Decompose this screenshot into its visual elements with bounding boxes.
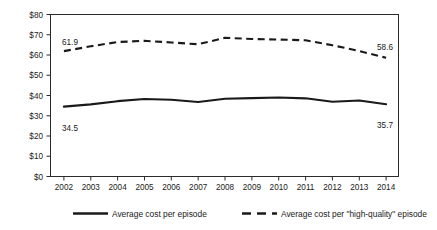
- data-labels: 61.9 58.6 34.5 35.7: [62, 38, 393, 133]
- data-label-solid-start: 34.5: [62, 124, 78, 133]
- y-tick-label-60: $60: [29, 51, 43, 60]
- data-label-solid-end: 35.7: [377, 121, 393, 130]
- series-line-average: [64, 98, 386, 107]
- x-tick-label-2005: 2005: [135, 183, 154, 192]
- x-tick-label-2011: 2011: [297, 183, 315, 192]
- y-tick-label-80: $80: [29, 11, 43, 20]
- y-axis-ticks: [47, 15, 51, 177]
- legend-label-average-cost-per-high-quality-episode: Average cost per "high-quality" episode: [281, 209, 427, 219]
- x-tick-label-2002: 2002: [55, 183, 74, 192]
- x-axis-ticks: [64, 177, 386, 181]
- y-axis-labels: $80 $70 $60 $50 $40 $30 $20 $10 $0: [29, 11, 43, 182]
- y-tick-label-70: $70: [29, 31, 43, 40]
- series-line-high-quality: [64, 38, 386, 58]
- series-group: [64, 38, 386, 107]
- x-tick-label-2006: 2006: [162, 183, 181, 192]
- y-tick-label-40: $40: [29, 92, 43, 101]
- x-tick-label-2003: 2003: [82, 183, 101, 192]
- y-tick-label-30: $30: [29, 112, 43, 121]
- x-axis-labels: 2002 2003 2004 2005 2006 2007 2008 2009 …: [55, 183, 396, 192]
- x-tick-label-2013: 2013: [350, 183, 369, 192]
- x-tick-label-2007: 2007: [189, 183, 208, 192]
- data-label-dashed-end: 58.6: [377, 43, 393, 52]
- x-tick-label-2004: 2004: [108, 183, 127, 192]
- legend-label-average-cost-per-episode: Average cost per episode: [112, 209, 207, 219]
- x-tick-label-2014: 2014: [377, 183, 396, 192]
- x-tick-label-2009: 2009: [243, 183, 262, 192]
- y-tick-label-20: $20: [29, 132, 43, 141]
- line-chart: $80 $70 $60 $50 $40 $30 $20 $10 $0: [0, 0, 437, 230]
- x-tick-label-2010: 2010: [270, 183, 289, 192]
- data-label-dashed-start: 61.9: [62, 38, 78, 47]
- y-tick-label-0: $0: [34, 173, 44, 182]
- x-tick-label-2012: 2012: [323, 183, 342, 192]
- legend: Average cost per episode Average cost pe…: [73, 209, 427, 219]
- y-tick-label-50: $50: [29, 71, 43, 80]
- y-tick-label-10: $10: [29, 152, 43, 161]
- chart-canvas: $80 $70 $60 $50 $40 $30 $20 $10 $0: [0, 0, 437, 230]
- x-tick-label-2008: 2008: [216, 183, 235, 192]
